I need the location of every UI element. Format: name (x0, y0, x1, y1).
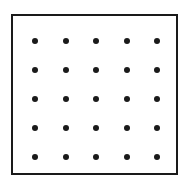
dot-grid (13, 16, 176, 173)
grid-dot (124, 125, 130, 131)
grid-dot (32, 38, 38, 44)
square-frame (11, 14, 178, 175)
grid-dot (124, 67, 130, 73)
grid-dot (63, 154, 69, 160)
grid-dot (63, 96, 69, 102)
grid-dot (93, 125, 99, 131)
grid-dot (124, 96, 130, 102)
grid-dot (32, 67, 38, 73)
grid-dot (154, 67, 160, 73)
grid-dot (63, 67, 69, 73)
grid-dot (93, 154, 99, 160)
grid-dot (154, 154, 160, 160)
grid-dot (154, 38, 160, 44)
grid-dot (124, 38, 130, 44)
grid-dot (32, 96, 38, 102)
grid-dot (63, 38, 69, 44)
grid-dot (124, 154, 130, 160)
grid-dot (32, 154, 38, 160)
grid-dot (154, 96, 160, 102)
grid-dot (154, 125, 160, 131)
grid-dot (93, 96, 99, 102)
grid-dot (93, 38, 99, 44)
grid-dot (93, 67, 99, 73)
figure-canvas (0, 0, 185, 181)
grid-dot (63, 125, 69, 131)
grid-dot (32, 125, 38, 131)
